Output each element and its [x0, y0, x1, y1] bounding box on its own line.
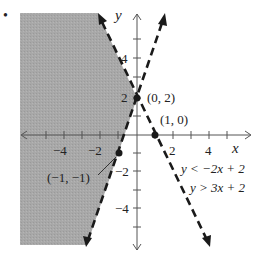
x-axis-label: x — [231, 140, 239, 156]
tick-label-y: −2 — [115, 164, 129, 179]
tick-label-y: 2 — [121, 90, 128, 105]
bullet-marker: • — [3, 8, 8, 23]
arrowhead-icon — [98, 13, 107, 25]
tick-label-x: 4 — [205, 143, 212, 158]
tick-label-x: −4 — [53, 143, 67, 158]
arrowhead-icon — [158, 13, 167, 26]
y-axis — [133, 14, 141, 250]
point-label-neg1-neg1: (−1, −1) — [47, 170, 90, 185]
point-1-0 — [152, 132, 159, 139]
point-0-2 — [134, 95, 141, 102]
arrowhead-icon — [202, 235, 211, 247]
inequality-graph: • — [0, 0, 269, 256]
tick-label-y: −4 — [115, 201, 129, 216]
inequality-label-1: y < −2x + 2 — [179, 161, 245, 176]
y-axis-label: y — [113, 7, 122, 23]
point-label-1-0: (1, 0) — [160, 112, 188, 127]
tick-label-x: −2 — [88, 143, 102, 158]
tick-label-y: 4 — [121, 51, 128, 66]
point-label-0-2: (0, 2) — [147, 90, 175, 105]
tick-label-x: 2 — [169, 143, 176, 158]
point-neg1-neg1 — [116, 150, 123, 157]
inequality-label-2: y > 3x + 2 — [188, 180, 246, 195]
